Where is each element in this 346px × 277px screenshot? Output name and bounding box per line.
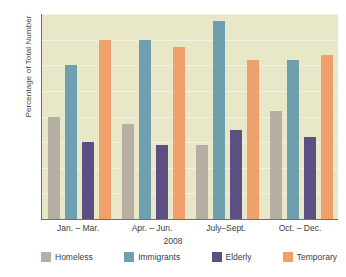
bar-group [190,14,264,219]
bar-chart: Percentage of Total Number 0510152025303… [0,0,346,277]
x-tick-label: Oct. – Dec. [279,223,322,233]
bar-homeless [48,117,60,220]
bar-homeless [196,145,208,219]
y-axis-title: Percentage of Total Number [24,0,33,147]
x-tick-label: July–Sept. [206,223,246,233]
bar-elderly [156,145,168,219]
legend-item-immigrants[interactable]: Immigrants [124,252,180,262]
bar-temporary [173,47,185,219]
legend-swatch-icon [283,252,293,262]
bar-immigrants [213,21,225,219]
bar-elderly [230,130,242,219]
legend-label: Homeless [55,252,93,262]
x-tick-label: Jan. – Mar. [57,223,99,233]
legend-label: Temporary [297,252,337,262]
legend-label: Immigrants [138,252,180,262]
bar-homeless [270,111,282,219]
bar-elderly [304,137,316,219]
bar-immigrants [139,40,151,219]
bar-homeless [122,124,134,219]
legend-item-temporary[interactable]: Temporary [283,252,337,262]
legend-item-homeless[interactable]: Homeless [41,252,93,262]
legend-item-elderly[interactable]: Elderly [212,252,252,262]
legend-swatch-icon [124,252,134,262]
plot-area [41,14,338,220]
plot-inner [42,14,338,219]
x-axis-title: 2008 [0,236,346,246]
bar-temporary [99,40,111,219]
bar-temporary [247,60,259,219]
legend-swatch-icon [212,252,222,262]
chart-legend: HomelessImmigrantsElderlyTemporary [41,252,337,262]
bar-immigrants [287,60,299,219]
x-tick-label: Apr. – Jun. [132,223,173,233]
bar-group [42,14,116,219]
bar-immigrants [65,65,77,219]
bar-elderly [82,142,94,219]
bar-group [264,14,338,219]
bar-temporary [321,55,333,219]
legend-label: Elderly [226,252,252,262]
legend-swatch-icon [41,252,51,262]
bar-group [116,14,190,219]
